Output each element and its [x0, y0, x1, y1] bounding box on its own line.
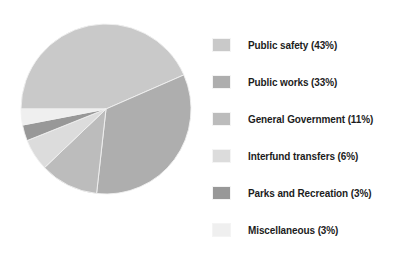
legend-label-miscellaneous: Miscellaneous (3%) — [248, 224, 338, 236]
legend-item-public-works[interactable]: Public works (33%) — [212, 75, 402, 89]
legend-swatch-public-safety — [212, 38, 231, 52]
legend-item-general-government[interactable]: General Government (11%) — [212, 112, 402, 126]
legend-label-public-safety: Public safety (43%) — [248, 39, 337, 51]
legend-label-public-works: Public works (33%) — [248, 76, 337, 88]
legend-swatch-general-government — [212, 112, 231, 126]
pie-chart-figure: Public safety (43%) Public works (33%) G… — [0, 0, 402, 262]
legend-item-public-safety[interactable]: Public safety (43%) — [212, 38, 402, 52]
legend-swatch-miscellaneous — [212, 223, 231, 237]
legend-label-general-government: General Government (11%) — [248, 113, 373, 125]
legend-swatch-parks-and-recreation — [212, 186, 231, 200]
pie-slice-group — [21, 24, 191, 194]
legend-item-miscellaneous[interactable]: Miscellaneous (3%) — [212, 223, 402, 237]
pie-chart-svg — [20, 22, 194, 198]
chart-legend: Public safety (43%) Public works (33%) G… — [212, 38, 402, 237]
legend-label-interfund-transfers: Interfund transfers (6%) — [248, 150, 358, 162]
legend-item-parks-and-recreation[interactable]: Parks and Recreation (3%) — [212, 186, 402, 200]
legend-swatch-interfund-transfers — [212, 149, 231, 163]
legend-label-parks-and-recreation: Parks and Recreation (3%) — [248, 187, 371, 199]
pie-chart-plot-area — [20, 22, 194, 198]
legend-swatch-public-works — [212, 75, 231, 89]
legend-item-interfund-transfers[interactable]: Interfund transfers (6%) — [212, 149, 402, 163]
